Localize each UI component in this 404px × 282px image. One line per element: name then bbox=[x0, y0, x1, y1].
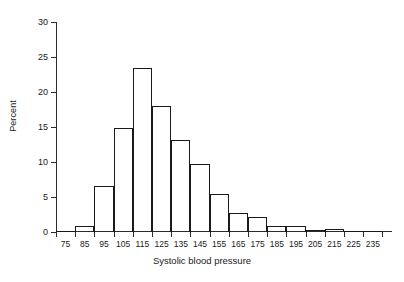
y-tick-label: 15 bbox=[38, 122, 48, 132]
x-tick-label: 225 bbox=[347, 239, 361, 249]
histogram-bar bbox=[229, 213, 248, 232]
x-tick-label: 125 bbox=[155, 239, 169, 249]
histogram-bar bbox=[190, 164, 209, 232]
x-axis-title-text: Systolic blood pressure bbox=[153, 255, 251, 266]
x-tick-mark bbox=[344, 232, 345, 237]
y-tick-label: 0 bbox=[43, 227, 48, 237]
x-tick-mark bbox=[267, 232, 268, 237]
x-axis-title: Systolic blood pressure bbox=[0, 255, 404, 266]
x-tick-mark bbox=[171, 232, 172, 237]
x-tick-label: 235 bbox=[366, 239, 380, 249]
y-tick-label: 5 bbox=[43, 192, 48, 202]
x-tick-label: 195 bbox=[289, 239, 303, 249]
x-tick-label: 95 bbox=[99, 239, 108, 249]
histogram-bar bbox=[210, 194, 229, 233]
x-tick-label: 75 bbox=[61, 239, 70, 249]
histogram-bar bbox=[133, 68, 152, 232]
x-tick-mark bbox=[382, 232, 383, 237]
x-tick-label: 155 bbox=[212, 239, 226, 249]
y-axis-title-text: Percent bbox=[8, 100, 18, 132]
x-axis-ticks: 7585951051151251351451551651751851952052… bbox=[56, 232, 392, 254]
y-axis-title: Percent bbox=[4, 0, 22, 232]
histogram-bar bbox=[94, 186, 113, 232]
x-tick-mark bbox=[152, 232, 153, 237]
x-tick-label: 85 bbox=[80, 239, 89, 249]
x-tick-label: 175 bbox=[251, 239, 265, 249]
histogram-bar bbox=[171, 140, 190, 232]
y-tick-label: 10 bbox=[38, 157, 48, 167]
x-tick-mark bbox=[248, 232, 249, 237]
x-tick-label: 105 bbox=[116, 239, 130, 249]
histogram-chart: Percent 051015202530 7585951051151251351… bbox=[0, 0, 404, 282]
histogram-bar bbox=[114, 128, 133, 232]
y-tick-label: 25 bbox=[38, 52, 48, 62]
x-tick-mark bbox=[229, 232, 230, 237]
x-tick-mark bbox=[75, 232, 76, 237]
y-tick-label: 20 bbox=[38, 87, 48, 97]
x-tick-mark bbox=[94, 232, 95, 237]
x-tick-mark bbox=[325, 232, 326, 237]
x-tick-mark bbox=[210, 232, 211, 237]
histogram-bar bbox=[248, 217, 267, 232]
x-tick-mark bbox=[306, 232, 307, 237]
plot-area: 051015202530 bbox=[56, 22, 392, 232]
x-tick-label: 185 bbox=[270, 239, 284, 249]
x-tick-label: 165 bbox=[231, 239, 245, 249]
x-tick-mark bbox=[363, 232, 364, 237]
x-tick-label: 135 bbox=[174, 239, 188, 249]
x-tick-label: 145 bbox=[193, 239, 207, 249]
x-tick-mark bbox=[286, 232, 287, 237]
x-tick-label: 215 bbox=[327, 239, 341, 249]
x-tick-label: 115 bbox=[136, 239, 150, 249]
x-tick-mark bbox=[56, 232, 57, 237]
x-tick-mark bbox=[133, 232, 134, 237]
bar-series bbox=[56, 22, 392, 232]
x-tick-mark bbox=[190, 232, 191, 237]
y-tick-label: 30 bbox=[38, 17, 48, 27]
x-tick-label: 205 bbox=[308, 239, 322, 249]
x-tick-mark bbox=[114, 232, 115, 237]
histogram-bar bbox=[152, 106, 171, 232]
